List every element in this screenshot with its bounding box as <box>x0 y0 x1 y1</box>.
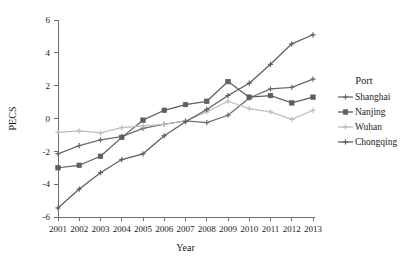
x-axis-tick-label: 2005 <box>134 224 153 234</box>
x-axis-tick-label: 2007 <box>177 224 196 234</box>
series-nanjing <box>56 79 316 170</box>
x-axis-tick-label: 2013 <box>304 224 323 234</box>
x-axis-tick-label: 2009 <box>219 224 238 234</box>
series-marker-nanjing <box>77 163 82 168</box>
x-axis-title: Year <box>176 242 195 253</box>
y-axis-tick-label: 6 <box>46 15 51 25</box>
x-axis-tick-label: 2006 <box>155 224 174 234</box>
legend-label-wuhan: Wuhan <box>355 122 382 132</box>
y-axis-tick-label: 4 <box>46 48 51 58</box>
series-marker-nanjing <box>311 95 316 100</box>
series-marker-nanjing <box>98 154 103 159</box>
x-axis-tick-label: 2010 <box>240 224 259 234</box>
series-line-nanjing <box>58 82 313 168</box>
series-marker-nanjing <box>204 99 209 104</box>
x-axis-tick-label: 2003 <box>92 224 111 234</box>
legend-item-shanghai[interactable]: Shanghai <box>338 92 391 102</box>
x-axis-tick-label: 2011 <box>262 224 280 234</box>
series-marker-nanjing <box>268 93 273 98</box>
series-marker-nanjing <box>162 108 167 113</box>
series-marker-nanjing <box>141 118 146 123</box>
y-axis-tick-label: -4 <box>43 179 51 189</box>
chart-figure: 6420-2-4-6200120022003200420052006200720… <box>0 0 417 268</box>
y-axis-tick-label: -6 <box>43 212 51 222</box>
x-axis-tick-label: 2001 <box>49 224 67 234</box>
y-axis-tick-label: -2 <box>43 147 51 157</box>
x-axis-tick-label: 2008 <box>198 224 217 234</box>
x-axis-tick-label: 2012 <box>283 224 301 234</box>
series-marker-nanjing <box>183 102 188 107</box>
series-marker-nanjing <box>226 79 231 84</box>
legend-label-nanjing: Nanjing <box>355 107 386 117</box>
legend-item-nanjing[interactable]: Nanjing <box>338 107 386 117</box>
series-chongqing <box>55 32 315 210</box>
line-chart: 6420-2-4-6200120022003200420052006200720… <box>0 0 417 268</box>
series-marker-nanjing <box>289 101 294 106</box>
x-axis-tick-label: 2002 <box>70 224 88 234</box>
series-line-shanghai <box>58 79 313 154</box>
y-axis-tick-label: 0 <box>46 114 51 124</box>
y-axis-tick-label: 2 <box>46 81 51 91</box>
legend-label-shanghai: Shanghai <box>355 92 391 102</box>
y-axis-title: PECS <box>7 107 18 131</box>
series-marker-nanjing <box>247 95 252 100</box>
legend-marker-nanjing <box>343 110 348 115</box>
legend-item-chongqing[interactable]: Chongqing <box>338 137 397 147</box>
series-shanghai <box>55 77 315 157</box>
legend-item-wuhan[interactable]: Wuhan <box>338 122 382 132</box>
series-marker-nanjing <box>119 135 124 140</box>
legend-title: Port <box>355 75 373 86</box>
series-marker-nanjing <box>56 165 61 170</box>
x-axis-tick-label: 2004 <box>113 224 132 234</box>
legend-label-chongqing: Chongqing <box>355 137 397 147</box>
